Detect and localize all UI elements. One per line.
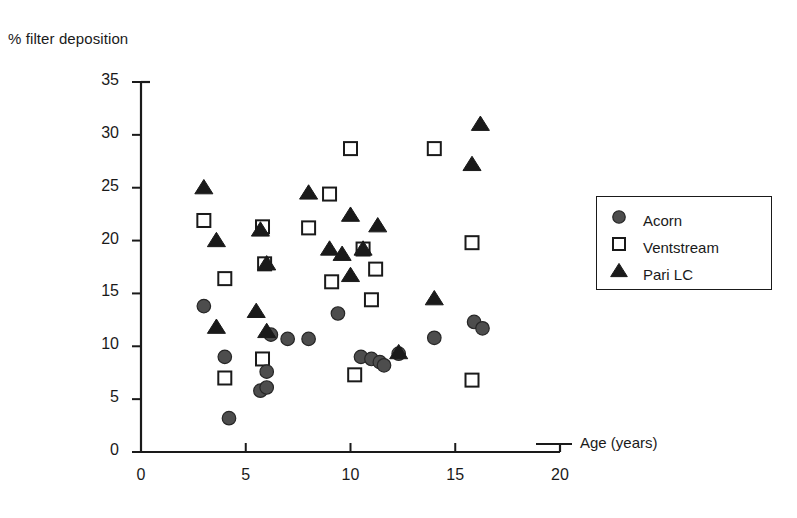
data-point-ventstream-square-marker bbox=[365, 293, 378, 306]
legend-circle-marker bbox=[613, 211, 625, 223]
data-point-acorn-circle-marker bbox=[377, 359, 391, 373]
filled-triangle-glyph bbox=[609, 261, 629, 281]
data-point-acorn-circle-marker bbox=[476, 322, 490, 336]
legend-item-pari-lc[interactable]: Pari LC bbox=[609, 261, 693, 287]
data-point-pari-lc-triangle-marker bbox=[341, 267, 359, 281]
y-tick-label: 10 bbox=[85, 335, 119, 353]
x-tick-label: 0 bbox=[126, 466, 156, 484]
series-ventstream bbox=[197, 142, 478, 387]
y-tick-label: 35 bbox=[85, 71, 119, 89]
legend-triangle-marker bbox=[611, 263, 628, 276]
chart-legend: AcornVentstreamPari LC bbox=[596, 196, 772, 290]
legend-square-marker bbox=[613, 238, 625, 250]
data-point-pari-lc-triangle-marker bbox=[300, 185, 318, 199]
data-point-ventstream-square-marker bbox=[369, 263, 382, 276]
scatter-chart-figure: % filter deposition Age (years) 05101520… bbox=[0, 0, 797, 518]
data-point-ventstream-square-marker bbox=[466, 236, 479, 249]
open-square-glyph bbox=[609, 234, 629, 254]
filled-circle-glyph bbox=[609, 207, 629, 227]
data-point-ventstream-square-marker bbox=[197, 214, 210, 227]
y-tick-label: 25 bbox=[85, 177, 119, 195]
data-point-pari-lc-triangle-marker bbox=[195, 179, 213, 193]
x-tick-label: 20 bbox=[545, 466, 575, 484]
data-point-acorn-circle-marker bbox=[281, 332, 295, 346]
x-tick-label: 10 bbox=[336, 466, 366, 484]
series-acorn bbox=[197, 299, 489, 425]
data-point-acorn-circle-marker bbox=[428, 331, 442, 345]
y-tick-label: 5 bbox=[85, 388, 119, 406]
data-point-pari-lc-triangle-marker bbox=[207, 319, 225, 333]
data-point-ventstream-square-marker bbox=[218, 372, 231, 385]
data-point-ventstream-square-marker bbox=[348, 368, 361, 381]
data-point-acorn-circle-marker bbox=[302, 332, 316, 346]
data-point-ventstream-square-marker bbox=[344, 142, 357, 155]
x-tick-label: 15 bbox=[440, 466, 470, 484]
data-point-pari-lc-triangle-marker bbox=[207, 232, 225, 246]
legend-item-ventstream[interactable]: Ventstream bbox=[609, 234, 719, 260]
y-tick-label: 30 bbox=[85, 124, 119, 142]
x-tick-label: 5 bbox=[231, 466, 261, 484]
legend-label: Ventstream bbox=[643, 239, 719, 256]
y-tick-label: 20 bbox=[85, 230, 119, 248]
data-point-ventstream-square-marker bbox=[256, 352, 269, 365]
y-tick-label: 15 bbox=[85, 282, 119, 300]
data-point-pari-lc-triangle-marker bbox=[471, 116, 489, 130]
data-point-pari-lc-triangle-marker bbox=[321, 241, 339, 255]
data-point-ventstream-square-marker bbox=[302, 221, 315, 234]
data-point-acorn-circle-marker bbox=[260, 365, 274, 379]
legend-label: Pari LC bbox=[643, 266, 693, 283]
data-point-pari-lc-triangle-marker bbox=[463, 156, 481, 170]
data-point-acorn-circle-marker bbox=[260, 381, 274, 395]
data-point-ventstream-square-marker bbox=[466, 374, 479, 387]
data-point-acorn-circle-marker bbox=[331, 307, 345, 321]
legend-item-acorn[interactable]: Acorn bbox=[609, 207, 682, 233]
data-point-ventstream-square-marker bbox=[428, 142, 441, 155]
data-point-pari-lc-triangle-marker bbox=[425, 290, 443, 304]
data-point-acorn-circle-marker bbox=[218, 350, 232, 364]
data-point-acorn-circle-marker bbox=[197, 299, 211, 313]
data-point-ventstream-square-marker bbox=[218, 272, 231, 285]
legend-label: Acorn bbox=[643, 212, 682, 229]
data-point-acorn-circle-marker bbox=[222, 411, 236, 425]
y-tick-label: 0 bbox=[85, 441, 119, 459]
data-point-pari-lc-triangle-marker bbox=[369, 218, 387, 232]
data-point-pari-lc-triangle-marker bbox=[247, 303, 265, 317]
data-point-ventstream-square-marker bbox=[325, 275, 338, 288]
series-pari-lc bbox=[195, 116, 490, 359]
data-point-pari-lc-triangle-marker bbox=[341, 207, 359, 221]
data-point-ventstream-square-marker bbox=[323, 188, 336, 201]
